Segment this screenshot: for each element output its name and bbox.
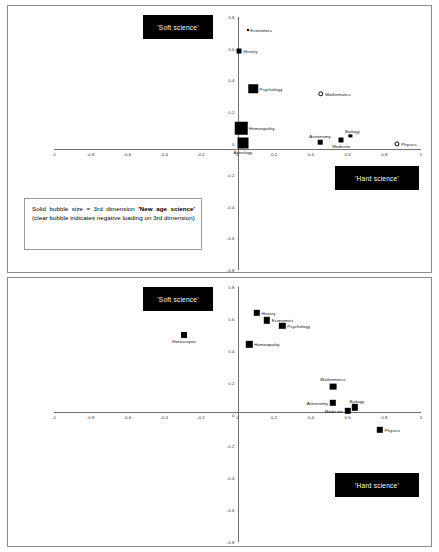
legend-note-part2: (clear bubble indicates negative loading…: [32, 214, 195, 221]
point-label-horoscopes: Horoscopes: [172, 339, 196, 344]
point-label-mathematics: Mathematics: [320, 377, 345, 382]
plot-area-bottom: -1-0.8-0.6-0.4-0.200.20.40.60.810.80.60.…: [8, 278, 431, 546]
bubble-size-legend: Solid bubble size = 3rd dimension 'New a…: [24, 198, 202, 250]
point-label-homeopathy: Homeopathy: [254, 342, 279, 347]
point-label-economics: Economics: [250, 28, 272, 33]
x-tick-label: 0.4: [308, 415, 314, 420]
data-point-biology: [349, 134, 352, 137]
hard-science-callout: 'Hard science': [335, 473, 419, 497]
point-label-psychology: Psychology: [259, 86, 282, 91]
scatter-panel-bottom: -1-0.8-0.6-0.4-0.200.20.40.60.810.80.60.…: [7, 277, 432, 547]
y-tick-label: -0.4: [227, 204, 235, 209]
point-label-history: History: [243, 48, 257, 53]
legend-note-emphasis: 'New age science': [138, 205, 195, 212]
point-label-astronomy: Astronomy: [309, 134, 330, 139]
y-tick-label: 0.6: [228, 46, 234, 51]
point-label-physics: Physics: [385, 427, 400, 432]
point-label-homeopathy: Homeopathy: [249, 126, 274, 131]
data-point-mathematics: [318, 91, 323, 96]
soft-science-callout: 'Soft science': [143, 15, 213, 39]
x-tick-label: 0.4: [308, 152, 314, 157]
x-tick-label: 0.8: [381, 152, 387, 157]
x-tick-label: -0.2: [197, 152, 205, 157]
y-tick-label: -0.2: [227, 444, 235, 449]
data-point-medicine: [344, 408, 350, 414]
y-tick-label: 0.6: [228, 316, 234, 321]
plot-area-top: -1-0.8-0.6-0.4-0.200.20.40.60.810.80.60.…: [8, 6, 431, 272]
x-tick-label: -0.4: [160, 415, 168, 420]
hard-science-callout: 'Hard science': [335, 166, 419, 190]
data-point-horoscopes: [181, 332, 187, 338]
scatter-panel-top: -1-0.8-0.6-0.4-0.200.20.40.60.810.80.60.…: [7, 5, 432, 273]
x-tick-label: 0.2: [271, 152, 277, 157]
y-tick-label: -0.8: [227, 268, 235, 273]
y-tick-label: 0.2: [228, 109, 234, 114]
point-label-psychology: Psychology: [287, 324, 310, 329]
y-tick-label: 0: [232, 141, 235, 146]
data-point-psychology: [279, 323, 285, 329]
y-tick-label: -0.6: [227, 508, 235, 513]
data-point-economics: [264, 317, 270, 323]
point-label-astronomy: Astronomy: [307, 400, 328, 405]
data-point-astronomy: [330, 399, 336, 405]
y-tick-label: -0.6: [227, 236, 235, 241]
y-tick-label: -0.8: [227, 540, 235, 545]
data-point-physics: [395, 142, 400, 147]
point-label-physics: Physics: [401, 142, 416, 147]
data-point-astrology: [238, 137, 249, 148]
y-tick-label: 0.4: [228, 78, 234, 83]
x-tick-label: -0.6: [123, 152, 131, 157]
x-tick-label: 0.6: [344, 152, 350, 157]
x-tick-label: -0.2: [197, 415, 205, 420]
y-tick-label: -0.4: [227, 476, 235, 481]
y-tick-label: -0.2: [227, 173, 235, 178]
data-point-astronomy: [318, 140, 323, 145]
data-point-biology: [352, 404, 358, 410]
point-label-medicine: Medicine: [332, 144, 350, 149]
x-tick-label: 0.2: [271, 415, 277, 420]
x-tick-label: -0.8: [87, 415, 95, 420]
x-tick-label: -1: [52, 152, 56, 157]
x-tick-label: 1: [420, 415, 423, 420]
data-point-homeopathy: [235, 122, 248, 135]
y-tick-label: 0.2: [228, 380, 234, 385]
x-tick-label: -1: [52, 415, 56, 420]
point-label-mathematics: Mathematics: [325, 91, 350, 96]
y-tick-label: 0.4: [228, 348, 234, 353]
data-point-psychology: [248, 84, 258, 94]
x-tick-label: -0.4: [160, 152, 168, 157]
y-tick-label: 0.8: [228, 285, 234, 290]
point-label-biology: Biology: [350, 399, 365, 404]
x-tick-label: -0.8: [87, 152, 95, 157]
x-tick-label: 0: [236, 415, 239, 420]
x-tick-label: 1: [420, 152, 423, 157]
x-tick-label: -0.6: [123, 415, 131, 420]
data-point-history: [254, 309, 260, 315]
point-label-medicine: Medicine: [325, 408, 343, 413]
y-tick-label: 0: [232, 412, 235, 417]
data-point-physics: [377, 426, 383, 432]
x-tick-label: 0.8: [381, 415, 387, 420]
legend-note-text: Solid bubble size = 3rd dimension 'New a…: [32, 204, 195, 222]
point-label-astrology: Astrology: [234, 150, 253, 155]
x-tick-label: 0.6: [344, 415, 350, 420]
figure-root: -1-0.8-0.6-0.4-0.200.20.40.60.810.80.60.…: [0, 0, 439, 552]
data-point-homeopathy: [246, 341, 252, 347]
data-point-history: [237, 48, 242, 53]
data-point-economics: [247, 29, 249, 31]
data-point-medicine: [339, 138, 344, 143]
data-point-mathematics: [330, 383, 337, 390]
soft-science-callout: 'Soft science': [143, 287, 213, 311]
point-label-biology: Biology: [345, 129, 360, 134]
y-tick-label: 0.8: [228, 15, 234, 20]
legend-note-part1: Solid bubble size = 3rd dimension: [32, 205, 138, 212]
point-label-history: History: [262, 310, 276, 315]
